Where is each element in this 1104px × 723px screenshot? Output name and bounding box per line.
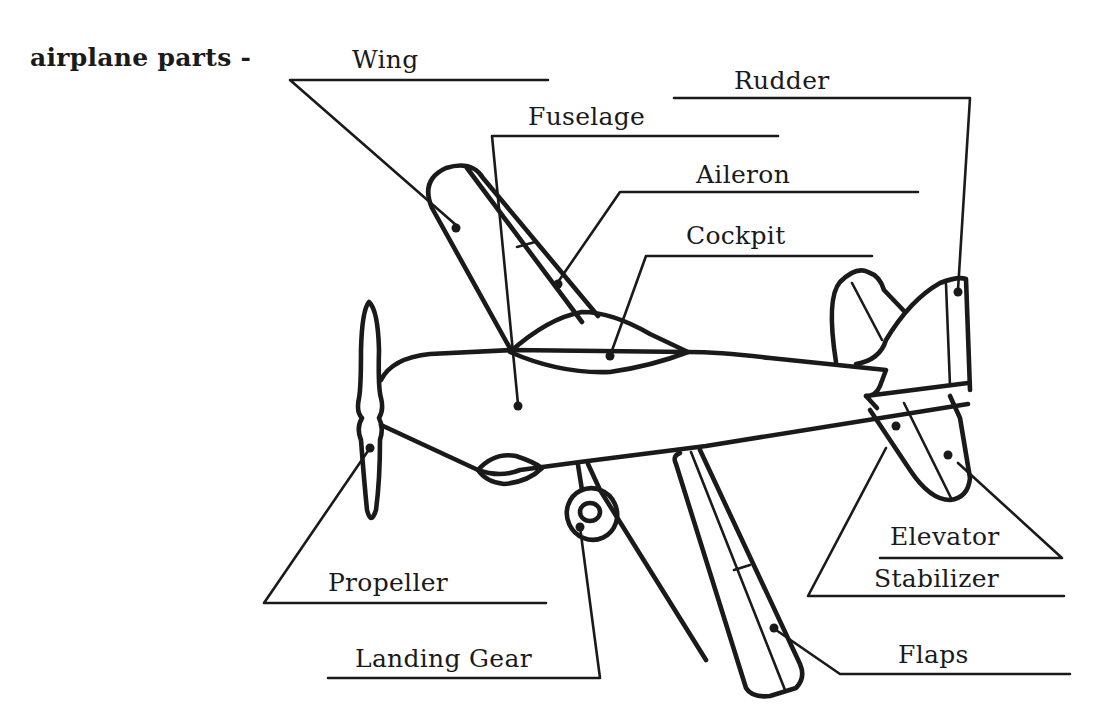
label-cockpit: Cockpit	[686, 223, 785, 248]
label-aileron: Aileron	[696, 162, 790, 187]
label-rudder: Rudder	[734, 68, 829, 93]
label-landing-gear: Landing Gear	[355, 646, 532, 671]
label-flaps: Flaps	[898, 642, 969, 667]
label-elevator: Elevator	[890, 524, 1000, 549]
pointer-dots	[366, 224, 963, 633]
label-propeller: Propeller	[328, 570, 448, 595]
label-wing: Wing	[352, 47, 419, 72]
cockpit-shape	[510, 312, 688, 372]
tail-fin-shape	[832, 270, 970, 390]
label-fuselage: Fuselage	[528, 104, 645, 129]
lower-wing-shape	[675, 450, 803, 696]
diagram-canvas: airplane parts - Wing Rudder Fuselage Ai…	[0, 0, 1104, 723]
label-stabilizer: Stabilizer	[874, 566, 999, 591]
propeller-shape	[358, 302, 382, 518]
diagram-title: airplane parts -	[30, 45, 251, 70]
